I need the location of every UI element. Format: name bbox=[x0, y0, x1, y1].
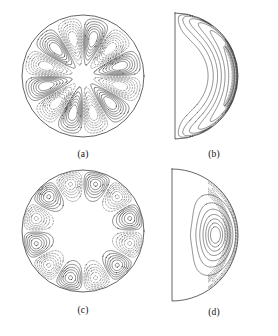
panel-b-label: (b) bbox=[150, 150, 278, 160]
panel-a-boundary-circle bbox=[22, 15, 144, 137]
panel-d-label: (d) bbox=[150, 308, 278, 318]
panel-d-boundary bbox=[172, 169, 238, 301]
panel-d: (d) bbox=[150, 164, 278, 314]
panel-b: (b) bbox=[150, 8, 278, 156]
panel-a: (a) bbox=[0, 8, 166, 156]
figure-root: (a) (b) (c) (d) bbox=[0, 0, 278, 336]
panel-c-plot bbox=[0, 164, 166, 304]
panel-c-label: (c) bbox=[0, 306, 166, 316]
panel-c-boundary-circle bbox=[22, 170, 144, 292]
panel-a-label: (a) bbox=[0, 150, 166, 160]
panel-c: (c) bbox=[0, 164, 166, 314]
panel-b-plot bbox=[150, 8, 278, 148]
panel-d-plot bbox=[150, 164, 278, 306]
panel-a-plot bbox=[0, 8, 166, 148]
